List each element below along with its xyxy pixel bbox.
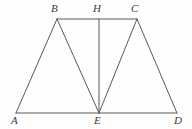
segment-group bbox=[16, 19, 177, 113]
segment-be bbox=[57, 19, 99, 113]
vertex-label-a: A bbox=[11, 115, 18, 126]
segment-ab bbox=[16, 19, 57, 113]
geometry-figure: A B C D E H bbox=[0, 0, 192, 129]
figure-canvas bbox=[0, 0, 192, 129]
vertex-label-e: E bbox=[94, 115, 101, 126]
vertex-label-d: D bbox=[174, 115, 182, 126]
vertex-label-h: H bbox=[93, 3, 101, 14]
vertex-label-b: B bbox=[51, 3, 58, 14]
segment-cd bbox=[137, 19, 177, 113]
segment-ec bbox=[99, 19, 137, 113]
vertex-label-c: C bbox=[131, 3, 138, 14]
